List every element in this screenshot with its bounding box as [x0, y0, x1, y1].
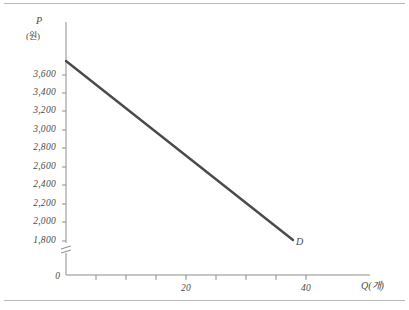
x-tick-label: 40: [291, 283, 321, 293]
x-tick-label: 20: [171, 283, 201, 293]
y-axis-unit: (원): [26, 29, 40, 42]
y-axis-symbol: P: [36, 15, 42, 26]
y-axis-break-icon: [61, 246, 71, 253]
y-tick-label: 2,600: [12, 161, 56, 171]
demand-curve-label: D: [296, 236, 303, 247]
demand-curve-figure: P (원) 3,600 3,400 3,200 3,000 2,800 2,60…: [0, 0, 409, 310]
y-tick-label: 3,600: [12, 69, 56, 79]
plot-area: [0, 0, 409, 310]
x-axis-ticks: [96, 275, 306, 280]
y-tick-label: 2,000: [12, 216, 56, 226]
y-tick-label: 2,800: [12, 142, 56, 152]
demand-curve-line: [66, 61, 293, 240]
y-tick-label: 3,400: [12, 87, 56, 97]
y-tick-label: 2,400: [12, 179, 56, 189]
x-axis-label: Q(개): [361, 277, 384, 292]
y-tick-label: 2,200: [12, 198, 56, 208]
y-tick-label: 3,000: [12, 124, 56, 134]
y-tick-label: 3,200: [12, 105, 56, 115]
y-tick-label: 1,800: [12, 235, 56, 245]
origin-label: 0: [40, 271, 60, 281]
y-axis-ticks: [62, 75, 66, 241]
